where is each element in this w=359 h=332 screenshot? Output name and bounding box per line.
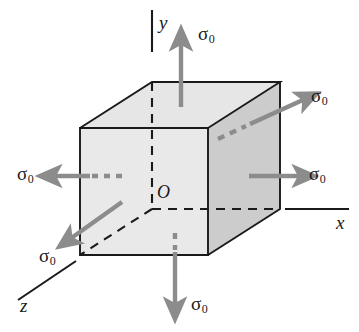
stress-front-left-label: σ0	[39, 246, 56, 267]
stress-front-left-symbol: σ	[39, 245, 49, 266]
stress-top-subscript: 0	[208, 32, 215, 46]
diagram-canvas	[0, 0, 359, 332]
stress-bottom-subscript: 0	[201, 302, 208, 316]
stress-right-label: σ0	[309, 164, 326, 185]
y-axis-label: y	[159, 13, 167, 32]
stress-element-figure: y x z O σ0 σ0 σ0 σ0 σ0 σ0	[0, 0, 359, 332]
stress-bottom-symbol: σ	[191, 293, 201, 314]
x-axis-label: x	[336, 213, 344, 232]
stress-right-symbol: σ	[309, 163, 319, 184]
stress-front-left-subscript: 0	[49, 254, 56, 268]
stress-back-right-subscript: 0	[321, 94, 328, 108]
stress-back-right-label: σ0	[311, 86, 328, 107]
stress-right-subscript: 0	[319, 172, 326, 186]
stress-top-symbol: σ	[198, 23, 208, 44]
z-axis-label: z	[20, 296, 27, 315]
stress-top-label: σ0	[198, 24, 215, 45]
stress-back-right-symbol: σ	[311, 85, 321, 106]
stress-left-symbol: σ	[17, 163, 27, 184]
origin-label: O	[157, 183, 170, 201]
stress-left-subscript: 0	[27, 172, 34, 186]
cube-front-face	[80, 128, 208, 255]
stress-left-label: σ0	[17, 164, 34, 185]
stress-bottom-label: σ0	[191, 294, 208, 315]
